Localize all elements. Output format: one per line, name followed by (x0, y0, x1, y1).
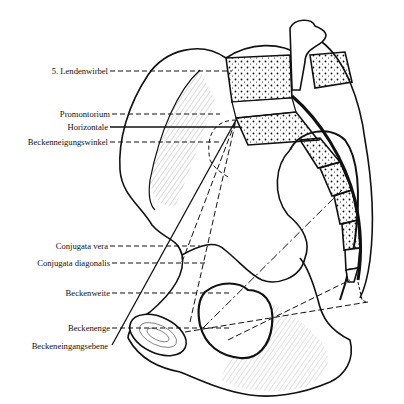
pelvis-diagram: 5. Lendenwirbel Promontorium Horizontale… (0, 0, 404, 404)
label-conjugata-diagonalis: Conjugata diagonalis (37, 258, 110, 268)
label-conjugata-vera: Conjugata vera (56, 241, 108, 251)
label-horizontale: Horizontale (67, 122, 108, 132)
label-beckenweite: Beckenweite (66, 288, 110, 298)
label-lendenwirbel: 5. Lendenwirbel (52, 66, 108, 76)
label-beckenneigungswinkel: Beckenneigungswinkel (28, 137, 108, 147)
label-promontorium: Promontorium (60, 109, 110, 119)
label-beckenenge: Beckenenge (68, 323, 110, 333)
obturator-foramen (198, 284, 272, 359)
l5-vertebral-body (226, 55, 292, 102)
label-beckeneingangsebene: Beckeneingangsebene (32, 341, 108, 351)
symphysis (123, 306, 193, 364)
